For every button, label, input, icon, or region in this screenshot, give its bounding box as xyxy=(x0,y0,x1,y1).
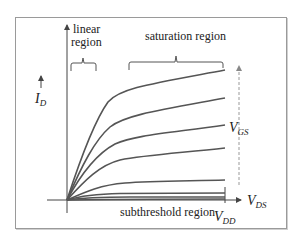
iv-curves xyxy=(67,70,225,200)
curve-vgs-4 xyxy=(67,148,225,200)
saturation-region-bracket xyxy=(129,56,223,70)
y-axis-label: ID xyxy=(34,91,47,108)
iv-characteristics-diagram: linear region saturation region subthres… xyxy=(0,0,301,239)
curve-vgs-2 xyxy=(67,98,225,200)
linear-region-label-2: region xyxy=(71,35,102,49)
vdd-label: VDD xyxy=(214,209,236,226)
linear-region-label-1: linear xyxy=(73,22,100,36)
subthreshold-region-label: subthreshold region xyxy=(120,205,215,219)
x-axis-label: VDS xyxy=(247,193,267,210)
saturation-region-label: saturation region xyxy=(145,29,226,43)
linear-region-bracket xyxy=(71,58,96,71)
